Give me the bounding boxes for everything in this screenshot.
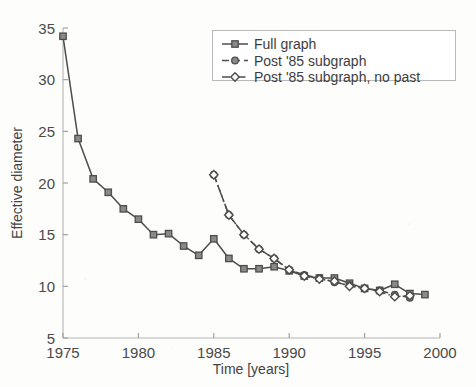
legend-label: Full graph	[254, 36, 316, 52]
y-axis-tick-labels: 5101520253035	[38, 20, 55, 347]
data-point-square-marker	[226, 255, 232, 261]
chart-legend: Full graphPost '85 subgraphPost '85 subg…	[213, 31, 456, 86]
data-point-square-marker	[150, 231, 156, 237]
data-point-square-marker	[256, 266, 262, 272]
x-axis-ticks	[63, 333, 440, 338]
y-tick-label: 15	[38, 226, 55, 243]
data-point-square-marker	[196, 252, 202, 258]
data-point-square-marker	[211, 236, 217, 242]
y-tick-label: 30	[38, 71, 55, 88]
data-point-square-marker	[392, 281, 398, 287]
legend-label: Post '85 subgraph, no past	[254, 69, 420, 85]
data-point-square-marker	[90, 176, 96, 182]
data-point-square-marker	[105, 189, 111, 195]
series-3	[210, 171, 414, 301]
y-tick-label: 25	[38, 123, 55, 140]
chart-figure: 5101520253035 197519801985199019952000 E…	[0, 0, 476, 387]
y-tick-label: 20	[38, 175, 55, 192]
x-tick-label: 1985	[197, 344, 230, 361]
x-axis-title: Time [years]	[213, 361, 290, 377]
data-point-diamond-marker	[210, 171, 218, 179]
x-tick-label: 1990	[273, 344, 306, 361]
data-point-square-marker	[271, 264, 277, 270]
data-point-square-marker	[241, 266, 247, 272]
data-point-circle-marker	[232, 57, 239, 64]
y-tick-label: 35	[38, 20, 55, 37]
data-point-square-marker	[60, 33, 66, 39]
x-tick-label: 1980	[122, 344, 155, 361]
data-point-square-marker	[165, 230, 171, 236]
y-axis-ticks	[63, 28, 68, 338]
effective-diameter-line-chart: 5101520253035 197519801985199019952000 E…	[0, 0, 476, 387]
data-point-square-marker	[120, 206, 126, 212]
y-axis-title: Effective diameter	[9, 127, 25, 239]
data-point-square-marker	[232, 41, 238, 47]
x-tick-label: 1995	[348, 344, 381, 361]
data-point-square-marker	[75, 135, 81, 141]
legend-label: Post '85 subgraph	[254, 53, 366, 69]
y-tick-label: 10	[38, 278, 55, 295]
data-point-square-marker	[135, 216, 141, 222]
data-point-square-marker	[422, 291, 428, 297]
x-axis-tick-labels: 197519801985199019952000	[46, 344, 456, 361]
data-point-square-marker	[180, 243, 186, 249]
x-tick-label: 1975	[46, 344, 79, 361]
x-tick-label: 2000	[423, 344, 456, 361]
